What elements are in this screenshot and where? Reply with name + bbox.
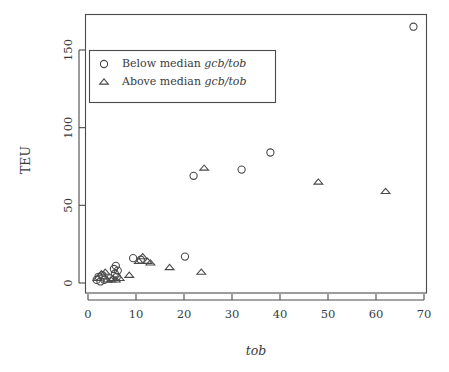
y-axis-tick-label: 150 [61,39,75,61]
y-axis-title: TEU [18,146,33,174]
y-axis-tick-label: 50 [61,198,75,213]
x-axis-tick-label: 50 [321,307,336,321]
y-axis-tick-label: 0 [61,279,75,286]
x-axis-tick-label: 20 [177,307,192,321]
scatter-plot-figure: 050100150 010203040506070 TEU tob Below … [0,0,449,372]
x-axis-tick-label: 70 [417,307,432,321]
x-axis-tick-label: 40 [273,307,288,321]
legend-item-label: Above median gcb/tob [121,75,247,88]
x-axis-tick-label: 30 [225,307,240,321]
y-axis-tick-label: 100 [61,117,75,139]
x-axis-title: tob [246,343,267,358]
legend-item-emphasis: gcb/tob [204,75,246,88]
legend-item-emphasis: gcb/tob [204,57,246,70]
plot-canvas: 050100150 010203040506070 TEU tob Below … [0,0,449,372]
x-axis-tick-label: 0 [84,307,91,321]
x-axis-tick-label: 10 [129,307,144,321]
legend-item-label: Below median gcb/tob [122,57,246,70]
x-axis-tick-label: 60 [369,307,384,321]
legend: Below median gcb/tobAbove median gcb/tob [90,51,276,103]
